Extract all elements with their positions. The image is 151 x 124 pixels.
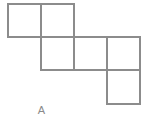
square-r1c1 bbox=[8, 4, 41, 37]
square-r3c4 bbox=[107, 70, 140, 104]
square-r2c4 bbox=[107, 37, 140, 70]
square-r2c2 bbox=[41, 37, 74, 70]
figure-container: A bbox=[0, 0, 151, 124]
square-r1c2 bbox=[41, 4, 74, 37]
figure-caption-label: A bbox=[0, 103, 151, 117]
